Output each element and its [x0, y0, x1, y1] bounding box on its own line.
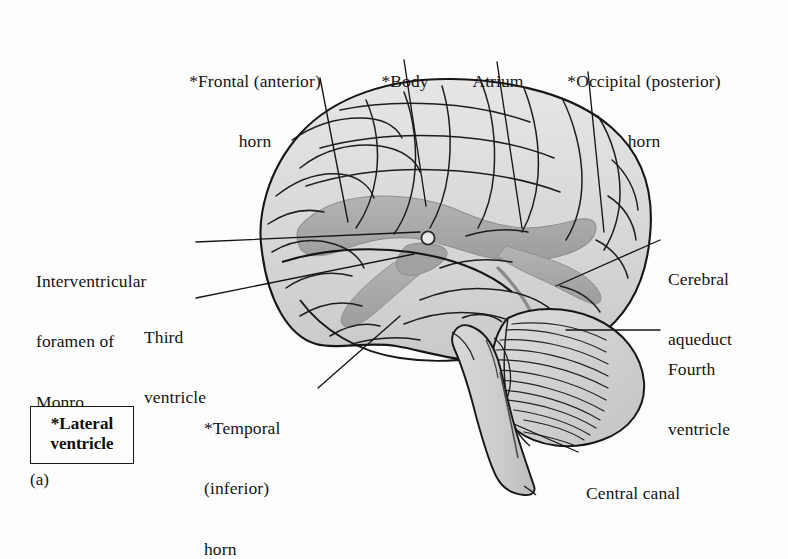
label-central-canal-line1: Central canal — [586, 483, 776, 503]
label-occipital-horn-line1: *Occipital (posterior) — [528, 71, 760, 91]
label-occipital-horn: *Occipital (posterior) horn — [528, 30, 760, 192]
label-body-line1: *Body — [360, 71, 450, 91]
lateral-ventricle-legend: *Lateral ventricle — [30, 406, 134, 464]
label-frontal-horn-line2: horn — [140, 131, 370, 151]
label-body: *Body — [360, 30, 450, 131]
label-temporal-horn-line1: *Temporal — [204, 418, 328, 438]
label-temporal-horn: *Temporal (inferior) horn — [204, 377, 328, 559]
figure-caption: (a) — [30, 470, 49, 490]
label-fourth-ventricle-line1: Fourth — [668, 359, 784, 379]
label-temporal-horn-line3: horn — [204, 539, 328, 559]
label-frontal-horn-line1: *Frontal (anterior) — [140, 71, 370, 91]
label-third-ventricle-line1: Third — [144, 327, 254, 347]
label-cerebral-aqueduct-line1: Cerebral — [668, 269, 784, 289]
legend-line1: *Lateral — [40, 414, 124, 434]
label-fourth-ventricle-line2: ventricle — [668, 419, 784, 439]
label-temporal-horn-line2: (inferior) — [204, 478, 328, 498]
label-central-canal: Central canal — [586, 442, 776, 543]
label-frontal-horn: *Frontal (anterior) horn — [140, 30, 370, 192]
legend-line2: ventricle — [40, 434, 124, 454]
label-occipital-horn-line2: horn — [528, 131, 760, 151]
